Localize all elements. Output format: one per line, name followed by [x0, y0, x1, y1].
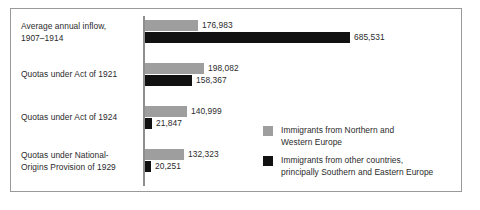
chart-figure: Average annual inflow, 1907–1914 176,983… [0, 0, 480, 210]
category-label: Quotas under National- Origins Provision… [21, 150, 141, 173]
bar-group: Average annual inflow, 1907–1914 176,983… [11, 15, 463, 57]
bar-value-label: 140,999 [187, 106, 222, 117]
bar-value-label: 132,323 [184, 149, 219, 160]
category-label-line-1: Quotas under National- [21, 150, 109, 160]
category-label-line-1: Average annual inflow, [21, 21, 106, 31]
chart-legend: Immigrants from Northern and Western Eur… [263, 125, 459, 185]
category-label: Quotas under Act of 1921 [21, 69, 141, 81]
bar-light-series [145, 149, 184, 160]
legend-swatch-light-icon [263, 126, 273, 136]
bar-light-series [145, 63, 204, 74]
legend-swatch-dark-icon [263, 156, 273, 166]
category-label-line-2: Origins Provision of 1929 [21, 162, 116, 172]
category-label: Average annual inflow, 1907–1914 [21, 21, 141, 44]
category-label-line-2: 1907–1914 [21, 33, 63, 43]
legend-label-line-1: Immigrants from Northern and [281, 125, 394, 135]
legend-item: Immigrants from other countries, princip… [263, 155, 459, 178]
bar-dark-series [145, 118, 152, 129]
bar-dark-series [145, 75, 192, 86]
legend-label-line-2: principally Southern and Eastern Europe [281, 167, 433, 177]
legend-item: Immigrants from Northern and Western Eur… [263, 125, 459, 148]
bar-light-series [145, 106, 187, 117]
bar-light-series [145, 20, 198, 31]
bar-value-label: 198,082 [204, 63, 239, 74]
bar-dark-series [145, 32, 350, 43]
category-label-line-1: Quotas under Act of 1921 [21, 69, 117, 79]
legend-label: Immigrants from other countries, princip… [281, 155, 459, 178]
bar-value-label: 176,983 [198, 20, 233, 31]
chart-frame: Average annual inflow, 1907–1914 176,983… [10, 8, 462, 192]
bar-value-label: 20,251 [151, 161, 181, 172]
bar-value-label: 21,847 [152, 118, 182, 129]
bar-value-label: 158,367 [192, 75, 227, 86]
legend-label-line-1: Immigrants from other countries, [281, 155, 403, 165]
category-label: Quotas under Act of 1924 [21, 112, 141, 124]
category-label-line-1: Quotas under Act of 1924 [21, 112, 117, 122]
bar-group: Quotas under Act of 1921 198,082 158,367 [11, 58, 463, 100]
bar-value-label: 685,531 [350, 32, 385, 43]
legend-label-line-2: Western Europe [281, 137, 342, 147]
plot-area: Average annual inflow, 1907–1914 176,983… [11, 9, 463, 193]
legend-label: Immigrants from Northern and Western Eur… [281, 125, 459, 148]
